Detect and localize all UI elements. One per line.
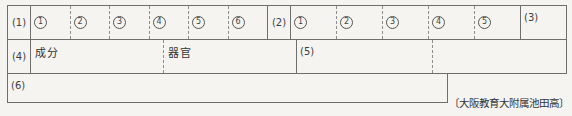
answer-cell-q2-1[interactable]: 1	[291, 6, 337, 39]
question-label-4: (4)	[8, 40, 31, 73]
dashed-divider	[432, 40, 433, 73]
question-label-1: (1)	[8, 6, 31, 39]
answer-cell-q1-2[interactable]: 2	[71, 6, 111, 39]
question-label-2-text: (2)	[272, 17, 286, 28]
answer-cell-q2-3[interactable]: 3	[383, 6, 429, 39]
circled-number-5: 5	[192, 16, 205, 29]
q2-answer-group: 1 2 3 4 5	[291, 6, 521, 39]
circled-number-4: 4	[153, 16, 166, 29]
question-label-2: (2)	[268, 6, 291, 39]
q1-answer-group: 1 2 3 4 5 6	[31, 6, 268, 39]
answer-cell-q2-2[interactable]: 2	[337, 6, 383, 39]
answer-cell-q2-5[interactable]: 5	[475, 6, 520, 39]
question-label-1-text: (1)	[12, 17, 26, 28]
question-label-4-text: (4)	[12, 51, 26, 62]
question-label-3-text: (3)	[521, 10, 538, 23]
q4-answer-group: 成分 器官	[31, 40, 297, 73]
answer-row-2: (4) 成分 器官 (5)	[7, 39, 567, 74]
answer-row-1: (1) 1 2 3 4 5 6 (2)	[7, 5, 567, 40]
circled-number-1: 1	[294, 16, 307, 29]
circled-number-2: 2	[340, 16, 353, 29]
circled-number-5: 5	[478, 16, 491, 29]
column-header-organ: 器官	[168, 47, 192, 60]
answer-cell-q4-component[interactable]: 成分	[31, 40, 164, 73]
answer-cell-q1-6[interactable]: 6	[229, 6, 268, 39]
question-label-5-text: (5)	[297, 44, 314, 57]
answer-cell-q1-3[interactable]: 3	[110, 6, 150, 39]
answer-sheet: (1) 1 2 3 4 5 6 (2)	[0, 0, 572, 116]
answer-cell-q2-4[interactable]: 4	[429, 6, 475, 39]
source-citation: 〔大阪教育大附属池田高〕	[449, 95, 569, 110]
column-header-component: 成分	[35, 47, 59, 60]
answer-cell-q1-1[interactable]: 1	[31, 6, 71, 39]
answer-cell-q4-organ[interactable]: 器官	[164, 40, 296, 73]
question-label-6-text: (6)	[8, 78, 25, 91]
circled-number-2: 2	[74, 16, 87, 29]
answer-cell-q1-4[interactable]: 4	[150, 6, 190, 39]
answer-cell-q1-5[interactable]: 5	[189, 6, 229, 39]
answer-cell-q6[interactable]: (6)	[8, 74, 447, 102]
circled-number-6: 6	[232, 16, 245, 29]
circled-number-4: 4	[432, 16, 445, 29]
circled-number-3: 3	[113, 16, 126, 29]
answer-row-3: (6)	[7, 73, 448, 103]
circled-number-3: 3	[386, 16, 399, 29]
circled-number-1: 1	[34, 16, 47, 29]
answer-cell-q5[interactable]: (5)	[297, 40, 566, 73]
answer-cell-q3[interactable]: (3)	[521, 6, 566, 39]
